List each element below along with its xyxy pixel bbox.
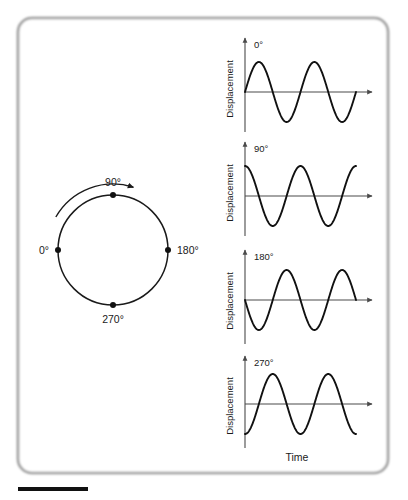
circle-point-marker-180 bbox=[55, 247, 61, 253]
y-axis-title-0: Displacement bbox=[224, 60, 235, 118]
circle-point-marker-0 bbox=[165, 247, 171, 253]
circle-point-label-180: 0° bbox=[39, 244, 49, 256]
scale-bar bbox=[18, 487, 88, 491]
panel-phase-label-90: 90° bbox=[254, 143, 269, 154]
phase-diagram-figure: 0°90°180°270° Displacement0°Displacement… bbox=[0, 0, 408, 500]
circle-point-marker-90 bbox=[110, 192, 116, 198]
y-axis-title-90: Displacement bbox=[224, 164, 235, 222]
frame-border bbox=[18, 18, 388, 473]
panel-phase-label-270: 270° bbox=[254, 357, 274, 368]
circle-point-label-0: 180° bbox=[177, 244, 199, 256]
x-axis-title-time: Time bbox=[286, 451, 309, 463]
circle-point-label-90: 90° bbox=[105, 176, 121, 188]
y-axis-title-270: Displacement bbox=[224, 377, 235, 435]
panel-phase-label-0: 0° bbox=[254, 39, 263, 50]
panel-phase-label-180: 180° bbox=[254, 251, 274, 262]
y-axis-title-180: Displacement bbox=[224, 272, 235, 330]
circle-point-marker-270 bbox=[110, 302, 116, 308]
circle-point-label-270: 270° bbox=[102, 313, 124, 325]
